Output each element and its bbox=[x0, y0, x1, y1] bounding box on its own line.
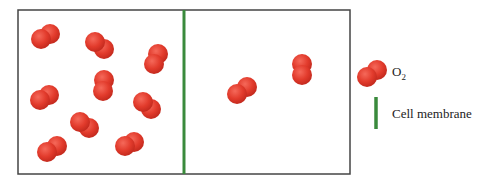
oxygen-molecule bbox=[357, 60, 387, 87]
oxygen-molecule bbox=[93, 70, 114, 101]
legend-membrane-label: Cell membrane bbox=[392, 106, 472, 122]
legend-oxygen-icon bbox=[357, 60, 387, 87]
diffusion-diagram bbox=[0, 0, 495, 187]
legend-o2-label: O2 bbox=[392, 64, 406, 82]
oxygen-molecule bbox=[292, 54, 312, 85]
